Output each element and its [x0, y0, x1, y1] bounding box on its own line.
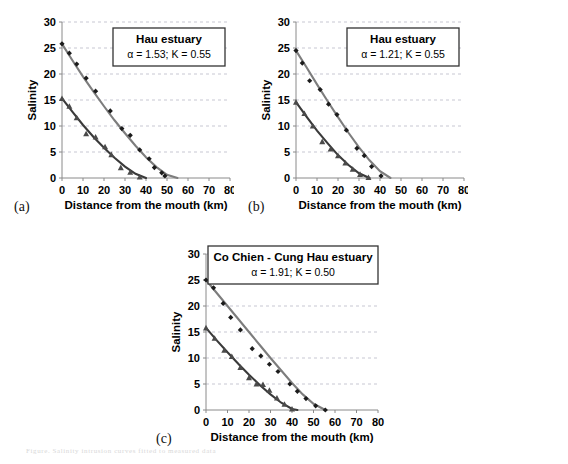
panel-c-svg: 05101520253001020304050607080Distance fr… — [150, 232, 386, 454]
panel-letter: (c) — [156, 431, 172, 447]
data-point-diamond — [228, 315, 233, 320]
panel-a-svg: 05101520253001020304050607080Distance fr… — [8, 4, 234, 218]
y-axis-title: Salinity — [260, 79, 272, 121]
x-tick-label-30: 30 — [119, 184, 131, 196]
y-tick-label-20: 20 — [44, 68, 56, 80]
x-tick-label-70: 70 — [437, 184, 449, 196]
x-tick-label-0: 0 — [59, 184, 65, 196]
panel-b-svg: 05101520253001020304050607080Distance fr… — [242, 4, 468, 218]
x-tick-label-0: 0 — [203, 416, 209, 428]
y-tick-label-10: 10 — [188, 352, 200, 364]
y-tick-label-25: 25 — [188, 274, 200, 286]
y-tick-label-30: 30 — [278, 16, 290, 28]
curve-3 — [62, 98, 146, 178]
x-tick-label-40: 40 — [286, 416, 298, 428]
y-tick-label-30: 30 — [188, 248, 200, 260]
y-tick-label-10: 10 — [44, 120, 56, 132]
chart-panel-c: 05101520253001020304050607080Distance fr… — [150, 232, 386, 454]
legend-title: Hau estuary — [370, 33, 436, 45]
x-tick-label-80: 80 — [224, 184, 234, 196]
y-tick-label-0: 0 — [194, 404, 200, 416]
x-tick-label-20: 20 — [243, 416, 255, 428]
x-tick-label-40: 40 — [140, 184, 152, 196]
chart-panel-b: 05101520253001020304050607080Distance fr… — [242, 4, 468, 218]
x-tick-label-10: 10 — [221, 416, 233, 428]
data-point-triangle — [59, 95, 65, 101]
y-tick-label-25: 25 — [44, 42, 56, 54]
x-tick-label-50: 50 — [307, 416, 319, 428]
y-tick-label-15: 15 — [44, 94, 56, 106]
y-tick-label-5: 5 — [194, 378, 200, 390]
legend-annotation: α = 1.53; K = 0.55 — [127, 48, 211, 60]
x-tick-label-50: 50 — [395, 184, 407, 196]
y-axis-title: Salinity — [170, 311, 182, 353]
legend-title: Hau estuary — [136, 33, 202, 45]
data-point-diamond — [250, 346, 255, 351]
x-tick-label-0: 0 — [293, 184, 299, 196]
x-tick-label-60: 60 — [182, 184, 194, 196]
x-tick-label-70: 70 — [350, 416, 362, 428]
curve-3 — [296, 102, 370, 178]
data-point-diamond — [159, 170, 164, 175]
curve-3 — [206, 328, 297, 410]
y-tick-label-15: 15 — [278, 94, 290, 106]
legend-title: Co Chien - Cung Hau estuary — [213, 251, 373, 263]
x-tick-label-30: 30 — [264, 416, 276, 428]
data-point-triangle — [203, 325, 209, 331]
figure-caption: Figure. Salinity intrusion curves fitted… — [26, 447, 446, 455]
y-tick-label-5: 5 — [284, 146, 290, 158]
panel-letter: (b) — [248, 199, 265, 215]
x-tick-label-40: 40 — [374, 184, 386, 196]
x-axis-title: Distance from the mouth (km) — [299, 199, 462, 211]
y-tick-label-30: 30 — [44, 16, 56, 28]
x-tick-label-10: 10 — [311, 184, 323, 196]
y-tick-label-25: 25 — [278, 42, 290, 54]
x-tick-label-10: 10 — [77, 184, 89, 196]
data-point-diamond — [267, 362, 272, 367]
y-tick-label-20: 20 — [188, 300, 200, 312]
chart-panel-a: 05101520253001020304050607080Distance fr… — [8, 4, 234, 218]
legend-annotation: α = 1.91; K = 0.50 — [251, 266, 335, 278]
x-axis-title: Distance from the mouth (km) — [65, 199, 228, 211]
y-axis-title: Salinity — [26, 79, 38, 121]
x-axis-title: Distance from the mouth (km) — [211, 431, 374, 443]
y-tick-label-20: 20 — [278, 68, 290, 80]
x-tick-label-80: 80 — [372, 416, 384, 428]
y-tick-label-0: 0 — [284, 172, 290, 184]
legend-annotation: α = 1.21; K = 0.55 — [361, 48, 445, 60]
x-tick-label-20: 20 — [98, 184, 110, 196]
figure-salinity-intrusion: 05101520253001020304050607080Distance fr… — [0, 0, 568, 464]
panel-letter: (a) — [14, 199, 30, 215]
x-tick-label-30: 30 — [353, 184, 365, 196]
x-tick-label-60: 60 — [416, 184, 428, 196]
y-tick-label-0: 0 — [50, 172, 56, 184]
y-tick-label-10: 10 — [278, 120, 290, 132]
y-tick-label-5: 5 — [50, 146, 56, 158]
data-point-triangle — [266, 387, 272, 393]
x-tick-label-80: 80 — [458, 184, 468, 196]
x-tick-label-60: 60 — [329, 416, 341, 428]
data-point-diamond — [307, 78, 312, 83]
x-tick-label-50: 50 — [161, 184, 173, 196]
y-tick-label-15: 15 — [188, 326, 200, 338]
x-tick-label-70: 70 — [203, 184, 215, 196]
x-tick-label-20: 20 — [332, 184, 344, 196]
